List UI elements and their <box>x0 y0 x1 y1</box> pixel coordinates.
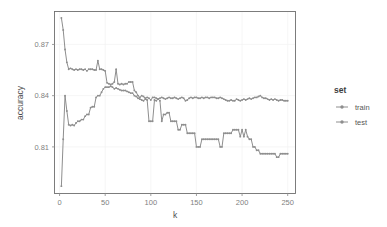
data-point-test <box>79 120 81 122</box>
data-point-test <box>214 138 216 140</box>
data-point-train <box>141 95 143 97</box>
series-train <box>60 17 288 102</box>
data-point-test <box>201 138 203 140</box>
data-point-test <box>97 95 99 97</box>
data-point-train <box>276 99 278 101</box>
series-line-train <box>61 18 287 101</box>
data-point-train <box>130 81 132 83</box>
data-point-train <box>188 97 190 99</box>
data-point-train <box>161 96 163 98</box>
data-point-test <box>141 99 143 101</box>
data-point-train <box>217 97 219 99</box>
data-point-train <box>263 97 265 99</box>
data-point-train <box>241 99 243 101</box>
data-point-test <box>132 92 134 94</box>
data-point-train <box>179 97 181 99</box>
data-point-test <box>228 132 230 134</box>
data-point-train <box>256 96 258 98</box>
data-point-test <box>225 132 227 134</box>
x-axis: 050100150200250 <box>57 193 293 207</box>
legend-item-train[interactable]: train <box>336 103 370 112</box>
data-point-test <box>272 153 274 155</box>
gridlines <box>55 12 295 193</box>
data-point-test <box>168 112 170 114</box>
data-point-test <box>155 100 157 102</box>
data-point-test <box>269 153 271 155</box>
data-point-test <box>88 114 90 116</box>
data-point-train <box>221 97 223 99</box>
data-point-train <box>113 81 115 83</box>
data-point-test <box>185 124 187 126</box>
data-point-train <box>154 96 156 98</box>
data-point-test <box>82 119 84 121</box>
x-tick-label: 150 <box>190 198 203 207</box>
chart-root: 0.810.840.87 050100150200250 accuracy k … <box>0 0 387 227</box>
data-point-train <box>122 84 124 86</box>
accuracy-vs-k-line-chart: 0.810.840.87 050100150200250 accuracy k … <box>0 0 387 227</box>
data-point-test <box>278 156 280 158</box>
data-point-train <box>194 96 196 98</box>
data-point-train <box>278 100 280 102</box>
data-point-train <box>73 69 75 71</box>
data-point-test <box>95 96 97 98</box>
data-point-train <box>62 29 64 31</box>
data-point-test <box>276 156 278 158</box>
data-point-train <box>254 96 256 98</box>
data-point-train <box>195 96 197 98</box>
data-point-train <box>146 96 148 98</box>
data-point-train <box>95 69 97 71</box>
x-tick-label: 200 <box>236 198 249 207</box>
data-point-train <box>239 100 241 102</box>
data-point-test <box>161 120 163 122</box>
data-point-test <box>267 153 269 155</box>
data-point-train <box>121 83 123 85</box>
data-point-train <box>104 70 106 72</box>
data-point-train <box>82 69 84 71</box>
data-point-train <box>270 98 272 100</box>
series-test <box>60 85 288 187</box>
data-point-train <box>230 99 232 101</box>
data-point-train <box>97 60 99 62</box>
data-point-train <box>64 49 66 51</box>
data-point-test <box>71 124 73 126</box>
data-point-test <box>263 153 265 155</box>
data-point-train <box>234 100 236 102</box>
data-point-test <box>101 91 103 93</box>
data-point-test <box>77 120 79 122</box>
data-point-train <box>252 97 254 99</box>
data-point-train <box>166 97 168 99</box>
data-point-train <box>143 96 145 98</box>
plot-panel <box>55 12 296 194</box>
data-point-test <box>254 146 256 148</box>
data-point-train <box>133 90 135 92</box>
x-tick-label: 100 <box>145 198 158 207</box>
data-point-test <box>73 125 75 127</box>
data-point-train <box>250 98 252 100</box>
data-point-test <box>194 132 196 134</box>
data-point-train <box>106 82 108 84</box>
data-point-test <box>86 114 88 116</box>
data-point-train <box>232 100 234 102</box>
data-point-test <box>239 136 241 138</box>
y-axis-title: accuracy <box>15 85 25 120</box>
data-point-train <box>192 97 194 99</box>
data-point-train <box>137 95 139 97</box>
data-point-test <box>283 153 285 155</box>
data-point-test <box>270 153 272 155</box>
data-point-test <box>108 86 110 88</box>
data-point-test <box>179 129 181 131</box>
data-point-test <box>130 92 132 94</box>
data-point-train <box>110 84 112 86</box>
legend-item-test[interactable]: test <box>336 118 368 127</box>
data-point-test <box>192 132 194 134</box>
data-point-train <box>267 98 269 100</box>
series-layer <box>60 17 288 187</box>
data-point-train <box>181 96 183 98</box>
data-point-test <box>126 90 128 92</box>
data-point-train <box>112 83 114 85</box>
data-point-train <box>148 97 150 99</box>
data-point-test <box>66 110 68 112</box>
data-point-train <box>228 100 230 102</box>
data-point-test <box>166 112 168 114</box>
data-point-test <box>90 107 92 109</box>
